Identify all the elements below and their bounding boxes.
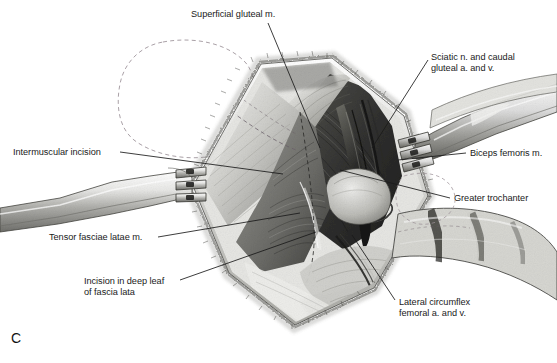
label-line-2: femoral a. and v. [399,308,466,318]
label-line-1: Lateral circumflex [399,297,470,307]
label-incision-in-deep-leaf: Incision in deep leafof fascia lata [84,276,164,298]
label-line-2: of fascia lata [84,287,135,297]
greater-trochanter-bone [326,169,391,225]
surgical-illustration-figure: Superficial gluteal m. Sciatic n. and ca… [0,0,557,363]
label-sciatic-and-caudal-gluteal: Sciatic n. and caudalgluteal a. and v. [431,52,515,74]
label-tensor-fasciae-latae: Tensor fasciae latae m. [49,232,142,243]
label-biceps-femoris: Biceps femoris m. [470,148,542,159]
label-intermuscular-incision: Intermuscular incision [13,147,101,158]
figure-panel-letter: C [11,330,21,346]
label-line-2: gluteal a. and v. [431,63,494,73]
label-line-1: Incision in deep leaf [84,276,164,286]
label-line-1: Sciatic n. and caudal [431,52,515,62]
label-superficial-gluteal: Superficial gluteal m. [191,9,275,20]
label-lateral-circumflex-femoral: Lateral circumflexfemoral a. and v. [399,297,470,319]
label-greater-trochanter: Greater trochanter [454,193,528,204]
